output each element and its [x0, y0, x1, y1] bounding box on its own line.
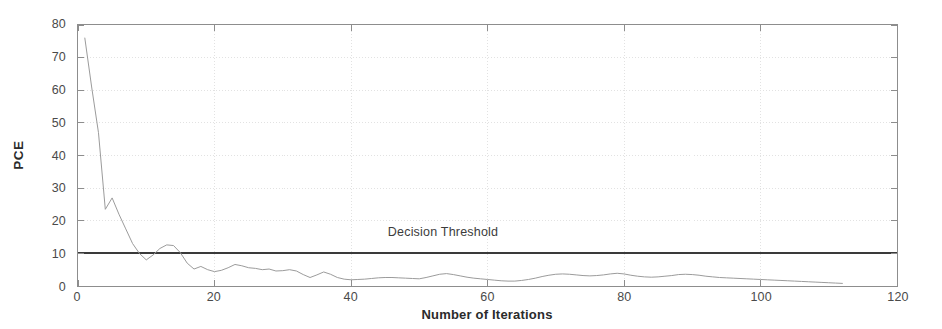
y-tick-label: 60: [52, 83, 66, 97]
y-tick-label: 10: [52, 247, 66, 261]
plot-area: [77, 24, 898, 287]
y-tick-label: 80: [52, 17, 66, 31]
x-tick-label: 20: [207, 290, 221, 304]
y-axis-tick-labels: 01020304050607080: [0, 24, 72, 287]
x-tick-label: 100: [750, 290, 771, 304]
chart-figure: PCE 01020304050607080 Decision Threshold…: [0, 0, 942, 329]
x-tick-label: 0: [73, 290, 80, 304]
y-tick-label: 30: [52, 181, 66, 195]
y-tick-label: 70: [52, 50, 66, 64]
y-tick-label: 50: [52, 116, 66, 130]
x-tick-label: 40: [344, 290, 358, 304]
data-series-pce: [85, 38, 843, 283]
plot-canvas: [78, 25, 897, 286]
decision-threshold-label: Decision Threshold: [388, 225, 498, 239]
x-tick-label: 120: [887, 290, 908, 304]
x-axis-title: Number of Iterations: [421, 307, 552, 322]
y-tick-label: 20: [52, 214, 66, 228]
y-tick-label: 0: [59, 280, 66, 294]
x-tick-label: 80: [617, 290, 631, 304]
x-tick-label: 60: [480, 290, 494, 304]
y-tick-label: 40: [52, 149, 66, 163]
